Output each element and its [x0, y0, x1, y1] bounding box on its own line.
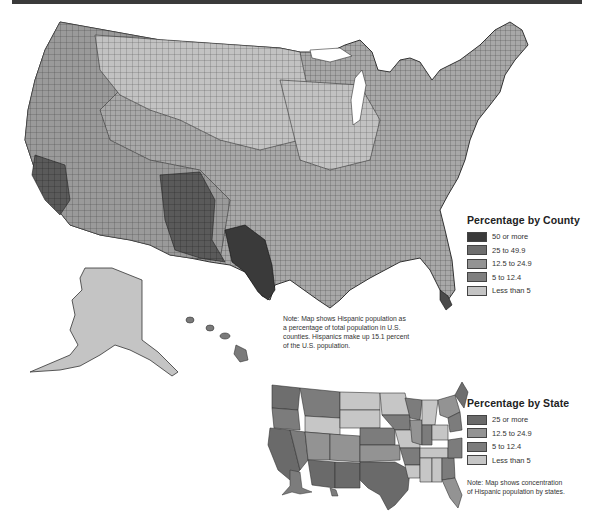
state-legend-title: Percentage by State — [467, 397, 569, 409]
county-legend-title: Percentage by County — [467, 214, 580, 226]
county-legend: Percentage by County 50 or more 25 to 49… — [467, 214, 580, 298]
legend-item: 12.5 to 24.9 — [467, 427, 569, 441]
legend-swatch — [467, 455, 487, 465]
legend-item: Less than 5 — [467, 454, 569, 468]
legend-swatch — [467, 232, 487, 242]
state-legend: Percentage by State 25 or more 12.5 to 2… — [467, 397, 569, 467]
legend-swatch — [467, 428, 487, 438]
legend-swatch — [467, 442, 487, 452]
hawaii-shape — [186, 317, 248, 362]
legend-swatch — [467, 272, 487, 282]
legend-item: Less than 5 — [467, 284, 580, 298]
legend-item: 5 to 12.4 — [467, 440, 569, 454]
legend-swatch — [467, 259, 487, 269]
legend-swatch — [467, 415, 487, 425]
legend-item: 50 or more — [467, 230, 580, 244]
legend-swatch — [467, 286, 487, 296]
legend-item: 12.5 to 24.9 — [467, 257, 580, 271]
legend-swatch — [467, 245, 487, 255]
legend-item: 5 to 12.4 — [467, 271, 580, 285]
county-map-note: Note: Map shows Hispanic population as a… — [283, 314, 453, 350]
alaska-shape — [30, 268, 178, 376]
legend-item: 25 to 49.9 — [467, 244, 580, 258]
state-map-note: Note: Map shows concentration of Hispani… — [467, 478, 592, 496]
legend-item: 25 or more — [467, 413, 569, 427]
